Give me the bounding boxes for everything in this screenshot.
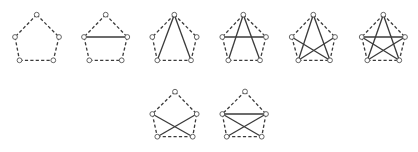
- solid-edge-top-bottom_left: [298, 15, 313, 61]
- pentagon-graph-g8: [220, 89, 268, 139]
- dashed-edge-right-bottom_right: [330, 37, 335, 60]
- vertex-bottom_left: [365, 58, 370, 63]
- dashed-edge-left-bottom_left: [152, 37, 157, 60]
- vertex-right: [57, 35, 62, 40]
- dashed-edge-right-bottom_right: [53, 37, 59, 60]
- vertex-top: [103, 12, 108, 17]
- dashed-edge-top-right: [313, 15, 335, 37]
- vertex-left: [13, 35, 18, 40]
- pentagon-graph-g5: [289, 12, 337, 62]
- vertex-left: [150, 112, 155, 117]
- vertex-right: [125, 35, 130, 40]
- dashed-edge-top-left: [84, 15, 106, 37]
- dashed-edge-top-right: [245, 92, 266, 115]
- vertex-left: [220, 112, 225, 117]
- vertex-bottom_right: [397, 58, 402, 63]
- vertex-bottom_left: [296, 58, 301, 63]
- vertex-left: [289, 35, 294, 40]
- dashed-edge-right-bottom_right: [262, 114, 266, 137]
- dashed-edge-top-left: [152, 15, 174, 37]
- vertex-bottom_left: [17, 58, 22, 63]
- dashed-edge-top-left: [15, 15, 37, 37]
- vertex-bottom_left: [226, 58, 231, 63]
- vertex-bottom_left: [224, 134, 229, 139]
- vertex-bottom_left: [155, 58, 160, 63]
- vertex-left: [150, 35, 155, 40]
- solid-edge-right-bottom_left: [367, 37, 405, 60]
- vertex-top: [311, 12, 316, 17]
- vertex-bottom_left: [155, 134, 160, 139]
- vertex-top: [172, 12, 177, 17]
- vertex-bottom_right: [190, 134, 195, 139]
- solid-edge-top-bottom_right: [313, 15, 330, 61]
- dashed-edge-left-bottom_left: [84, 37, 89, 60]
- solid-edge-top-bottom_right: [174, 15, 191, 61]
- pentagon-graph-g4: [220, 12, 268, 62]
- pentagon-graph-g1: [13, 12, 62, 62]
- solid-edge-top-bottom_left: [157, 15, 174, 61]
- vertex-right: [194, 112, 199, 117]
- vertex-top: [381, 12, 386, 17]
- vertex-bottom_left: [87, 58, 92, 63]
- vertex-bottom_right: [259, 134, 264, 139]
- pentagon-graph-g7: [150, 89, 199, 139]
- vertex-bottom_right: [258, 58, 263, 63]
- dashed-edge-top-right: [174, 15, 196, 37]
- vertex-left: [82, 35, 87, 40]
- solid-edge-left-bottom_right: [222, 114, 261, 137]
- vertex-left: [220, 35, 225, 40]
- vertex-bottom_right: [119, 58, 124, 63]
- pentagon-graphs-diagram: [0, 0, 418, 152]
- vertex-right: [403, 35, 408, 40]
- vertex-right: [264, 35, 269, 40]
- dashed-edge-top-right: [106, 15, 128, 37]
- vertex-top: [241, 12, 246, 17]
- vertex-top: [173, 89, 178, 94]
- dashed-edge-right-bottom_right: [260, 37, 266, 60]
- dashed-edge-right-bottom_right: [122, 37, 128, 60]
- dashed-edge-left-bottom_left: [15, 37, 20, 60]
- vertex-right: [194, 35, 199, 40]
- vertex-bottom_right: [51, 58, 56, 63]
- vertex-right: [264, 112, 269, 117]
- vertex-left: [359, 35, 364, 40]
- solid-edge-right-bottom_left: [157, 114, 196, 137]
- solid-edge-left-bottom_right: [292, 37, 330, 60]
- dashed-edge-left-bottom_left: [152, 114, 157, 137]
- pentagon-graph-g2: [82, 12, 130, 62]
- vertex-right: [333, 35, 338, 40]
- solid-edge-right-bottom_left: [227, 114, 266, 137]
- dashed-edge-right-bottom_right: [191, 37, 197, 60]
- vertex-bottom_right: [189, 58, 194, 63]
- pentagon-graph-g3: [150, 12, 199, 62]
- dashed-edge-right-bottom_right: [193, 114, 197, 137]
- dashed-edge-left-bottom_left: [222, 37, 228, 60]
- solid-edge-right-bottom_left: [298, 37, 335, 60]
- dashed-edge-top-right: [37, 15, 59, 37]
- dashed-edge-top-right: [175, 92, 197, 114]
- solid-edge-left-bottom_right: [152, 114, 192, 137]
- dashed-edge-top-left: [222, 92, 245, 115]
- solid-edge-left-bottom_right: [362, 37, 400, 60]
- dashed-edge-left-bottom_left: [222, 114, 226, 137]
- pentagon-graph-g6: [359, 12, 407, 62]
- vertex-top: [34, 12, 39, 17]
- vertex-bottom_right: [328, 58, 333, 63]
- dashed-edge-top-left: [152, 92, 175, 114]
- vertex-top: [243, 89, 248, 94]
